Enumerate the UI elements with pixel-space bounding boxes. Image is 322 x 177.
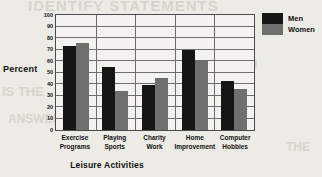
x-axis-category-label: ComputerHobbies: [215, 133, 255, 152]
x-axis-category-label: HomeImprovement: [174, 133, 215, 152]
y-axis-title: Percent: [3, 64, 37, 74]
legend-label-women: Women: [288, 25, 315, 34]
x-axis-category-label: PlayingSports: [95, 133, 135, 152]
y-axis-tick-label: 10: [47, 116, 53, 122]
legend-item-women: Women: [262, 24, 315, 35]
x-axis-category-line: Charity: [135, 133, 175, 142]
y-axis-tick-label: 0: [50, 127, 53, 133]
y-axis-tick-label: 100: [44, 12, 53, 18]
bar-women: [76, 43, 89, 130]
y-axis-tick-label: 70: [47, 47, 53, 53]
y-axis-tick-label: 90: [47, 24, 53, 30]
y-axis-tick-label: 50: [47, 70, 53, 76]
x-axis-category-labels: ExerciseProgramsPlayingSportsCharityWork…: [55, 133, 255, 152]
scan-artifact-text: IDENTIFY STATEMENTS: [28, 0, 219, 14]
bar-group: [214, 15, 254, 130]
y-axis-tick-label: 20: [47, 104, 53, 110]
scan-artifact-text: IS THE: [2, 84, 44, 99]
x-axis-category-line: Home: [174, 133, 215, 142]
x-axis-category-label: ExercisePrograms: [55, 133, 95, 152]
chart-screenshot: IDENTIFY STATEMENTS VVOIVIEN IS THE MOST…: [0, 0, 322, 177]
legend: Men Women: [262, 13, 315, 35]
legend-swatch-women: [262, 24, 283, 35]
x-axis-category-line: Work: [135, 142, 175, 151]
x-axis-category-line: Playing: [95, 133, 135, 142]
bar-group: [96, 15, 136, 130]
legend-swatch-men: [262, 13, 283, 24]
bar-groups: [56, 15, 254, 130]
x-axis-category-line: Exercise: [55, 133, 95, 142]
scan-artifact-text: ANSWER: [8, 112, 61, 126]
bar-men: [182, 50, 195, 131]
bar-women: [234, 89, 247, 130]
bar-group: [56, 15, 96, 130]
x-axis-title-text: Leisure Activities: [70, 160, 144, 170]
y-axis-tick-label: 30: [47, 93, 53, 99]
plot-area: 1009080706050403020100: [55, 14, 255, 131]
x-axis-category-line: Hobbies: [215, 142, 255, 151]
scan-artifact-text: THE: [286, 140, 310, 154]
y-axis-tick-label: 80: [47, 35, 53, 41]
y-axis-tick-label: 60: [47, 58, 53, 64]
legend-item-men: Men: [262, 13, 315, 24]
bar-group: [135, 15, 175, 130]
x-axis-title: Leisure Activities: [0, 160, 322, 170]
bar-women: [155, 78, 168, 130]
y-axis-tick-label: 40: [47, 81, 53, 87]
x-axis-category-line: Programs: [55, 142, 95, 151]
bar-men: [63, 46, 76, 130]
bar-group: [175, 15, 215, 130]
bar-men: [102, 67, 115, 130]
bar-women: [115, 91, 128, 130]
legend-label-men: Men: [288, 14, 303, 23]
bar-men: [142, 85, 155, 130]
x-axis-category-line: Computer: [215, 133, 255, 142]
bar-women: [195, 61, 208, 130]
x-axis-category-label: CharityWork: [135, 133, 175, 152]
bar-men: [221, 81, 234, 130]
x-axis-category-line: Improvement: [174, 142, 215, 151]
x-axis-category-line: Sports: [95, 142, 135, 151]
